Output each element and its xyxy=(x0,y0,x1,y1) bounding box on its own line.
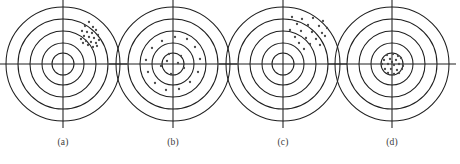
shot-mark xyxy=(83,35,85,37)
shot-mark xyxy=(303,48,305,50)
shot-mark xyxy=(389,58,391,60)
shot-mark xyxy=(161,40,163,42)
caption-b: (b) xyxy=(153,137,193,147)
shot-mark xyxy=(95,42,97,44)
shot-mark xyxy=(183,67,185,69)
shot-mark xyxy=(194,46,196,48)
shot-mark xyxy=(294,36,296,38)
shot-mark xyxy=(170,73,172,75)
shot-mark xyxy=(91,32,93,34)
shot-mark xyxy=(95,29,97,31)
shot-mark xyxy=(96,45,98,47)
shot-mark xyxy=(305,37,307,39)
shot-mark xyxy=(296,23,298,25)
shot-mark xyxy=(81,30,83,32)
shot-mark xyxy=(147,71,149,73)
target-graphic-d xyxy=(318,0,460,138)
shot-mark xyxy=(392,53,394,55)
shot-mark xyxy=(177,62,179,64)
shot-mark xyxy=(174,36,176,38)
shot-mark xyxy=(390,68,392,70)
shot-mark xyxy=(391,61,393,63)
shot-mark xyxy=(165,89,167,91)
shot-mark xyxy=(93,37,95,39)
shot-mark xyxy=(311,31,313,33)
shot-mark xyxy=(401,68,403,70)
shot-mark xyxy=(189,81,191,83)
shot-mark xyxy=(398,72,400,74)
shot-mark xyxy=(86,31,88,33)
shot-mark xyxy=(180,55,182,57)
shot-mark xyxy=(309,43,311,45)
shot-mark xyxy=(90,41,92,43)
shot-mark xyxy=(178,88,180,90)
shot-cluster-a xyxy=(80,21,100,48)
shot-mark xyxy=(387,72,389,74)
shot-mark xyxy=(186,38,188,40)
shot-mark xyxy=(393,73,395,75)
shot-mark xyxy=(312,17,314,19)
shot-mark xyxy=(291,16,293,18)
shot-mark xyxy=(145,59,147,61)
shot-mark xyxy=(397,55,399,57)
shot-mark xyxy=(92,26,94,28)
shot-mark xyxy=(381,63,383,65)
shot-mark xyxy=(160,65,162,67)
shot-mark xyxy=(398,63,400,65)
shot-mark xyxy=(301,18,303,20)
shot-mark xyxy=(92,46,94,48)
shot-mark xyxy=(386,54,388,56)
shot-mark xyxy=(151,47,153,49)
shot-mark xyxy=(80,38,82,40)
shot-mark xyxy=(82,42,84,44)
shot-mark xyxy=(383,59,385,61)
shot-mark xyxy=(402,65,404,67)
shot-mark xyxy=(84,25,86,27)
shot-mark xyxy=(88,36,90,38)
caption-a: (a) xyxy=(43,137,83,147)
shot-mark xyxy=(197,71,199,73)
caption-c: (c) xyxy=(263,137,303,147)
shot-mark xyxy=(87,44,89,46)
shot-mark xyxy=(166,60,168,62)
shot-mark xyxy=(298,42,300,44)
shot-mark xyxy=(395,59,397,61)
shot-mark xyxy=(199,58,201,60)
target-d xyxy=(318,0,460,138)
shot-mark xyxy=(307,24,309,26)
caption-d: (d) xyxy=(372,137,412,147)
shot-mark xyxy=(154,82,156,84)
shot-mark xyxy=(289,29,291,31)
shot-mark xyxy=(315,38,317,40)
shot-mark xyxy=(384,68,386,70)
shot-mark xyxy=(400,57,402,59)
shot-mark xyxy=(168,53,170,55)
shot-mark xyxy=(393,64,395,66)
shot-mark xyxy=(387,63,389,65)
shot-mark xyxy=(396,69,398,71)
shot-mark xyxy=(300,30,302,32)
shot-mark xyxy=(88,21,90,23)
shot-mark xyxy=(85,40,87,42)
